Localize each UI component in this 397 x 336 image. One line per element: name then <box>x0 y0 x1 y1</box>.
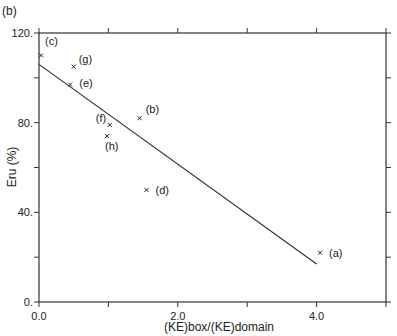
y-tick-label: 120. <box>12 27 33 39</box>
data-point-marker <box>72 65 76 69</box>
data-point-label: (g) <box>79 53 92 65</box>
y-tick-label: 40. <box>18 206 33 218</box>
data-point-marker <box>68 83 72 87</box>
plot-frame <box>39 33 386 302</box>
data-point-marker <box>39 53 43 57</box>
data-point-label: (c) <box>45 35 58 47</box>
x-tick-label: 0.0 <box>31 310 46 322</box>
y-axis-label: Eru (%) <box>5 147 19 188</box>
regression-line <box>39 64 317 264</box>
data-point-label: (f) <box>96 112 106 124</box>
data-point-marker <box>108 123 112 127</box>
data-point-label: (b) <box>146 103 159 115</box>
data-point-marker <box>145 188 149 192</box>
y-tick-label: 0. <box>24 296 33 308</box>
scatter-plot: 0.02.04.00.40.80.120.(a)(b)(c)(d)(e)(f)(… <box>0 0 397 336</box>
data-point-label: (a) <box>329 247 342 259</box>
data-point-marker <box>318 251 322 255</box>
x-tick-label: 4.0 <box>309 310 324 322</box>
data-point-label: (h) <box>105 140 118 152</box>
data-point-label: (d) <box>156 184 169 196</box>
x-axis-label: (KE)box/(KE)domain <box>164 320 274 334</box>
data-point-label: (e) <box>79 77 92 89</box>
data-point-marker <box>138 116 142 120</box>
data-point-marker <box>105 134 109 138</box>
y-tick-label: 80. <box>18 117 33 129</box>
